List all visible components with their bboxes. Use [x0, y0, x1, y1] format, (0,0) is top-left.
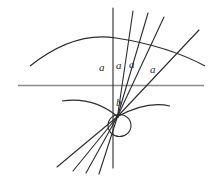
lower-arc-left: [62, 100, 118, 116]
label-a-2: a: [116, 60, 122, 71]
vertex-point: [116, 115, 119, 118]
ray-group: [57, 8, 199, 174]
label-a-1: a: [99, 62, 105, 73]
label-b-1: b: [116, 97, 122, 108]
circle-group: [108, 115, 131, 137]
tangent-circle: [108, 115, 131, 137]
label-a-4: a: [150, 64, 156, 75]
geometry-figure: [0, 0, 220, 181]
figure-container: a a a a b: [0, 0, 220, 181]
vertex-group: [116, 115, 119, 118]
ray-down-2: [73, 117, 118, 172]
lower-arc-right: [118, 105, 171, 117]
label-a-3: a: [129, 59, 135, 70]
